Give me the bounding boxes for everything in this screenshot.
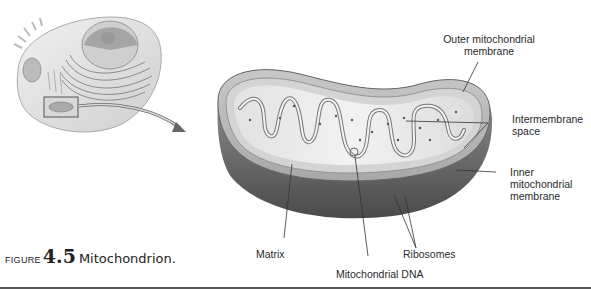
label-line: space bbox=[512, 125, 583, 137]
bottom-rule bbox=[0, 287, 591, 289]
label-matrix: Matrix bbox=[256, 248, 285, 260]
label-inner-membrane: Inner mitochondrial membrane bbox=[510, 166, 572, 202]
label-line: Intermembrane bbox=[512, 113, 583, 125]
mitochondrion-illustration bbox=[218, 70, 493, 219]
label-line: mitochondrial bbox=[510, 178, 572, 190]
figure-caption: FIGURE4.5Mitochondrion. bbox=[5, 245, 176, 267]
figure-title: Mitochondrion. bbox=[79, 251, 176, 266]
caption-prefix: FIGURE bbox=[5, 255, 41, 265]
label-line: Outer mitochondrial bbox=[418, 33, 560, 45]
label-intermembrane-space: Intermembrane space bbox=[512, 113, 583, 137]
label-line: membrane bbox=[418, 45, 560, 57]
label-line: membrane bbox=[510, 190, 572, 202]
label-ribosomes: Ribosomes bbox=[403, 248, 456, 260]
label-mitochondrial-dna: Mitochondrial DNA bbox=[336, 268, 424, 280]
figure: Outer mitochondrial membrane Intermembra… bbox=[0, 0, 591, 292]
label-outer-membrane: Outer mitochondrial membrane bbox=[418, 33, 560, 57]
cell-illustration bbox=[14, 17, 161, 132]
figure-number: 4.5 bbox=[43, 245, 76, 267]
label-line: Inner bbox=[510, 166, 572, 178]
